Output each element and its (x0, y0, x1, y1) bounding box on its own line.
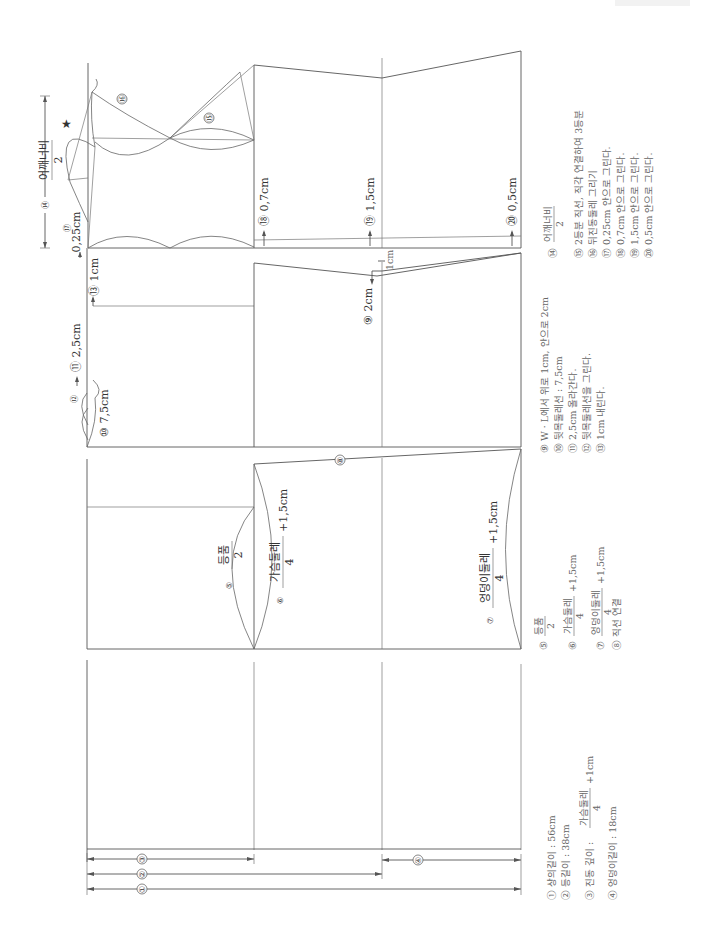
svg-text:어깨너비: 어깨너비 (542, 206, 553, 242)
svg-text:⑤: ⑤ (538, 641, 549, 650)
svg-text:⑯: ⑯ (118, 95, 127, 103)
svg-text:가슴둘레: 가슴둘레 (269, 542, 282, 582)
notes-group-3: ⑨ W · L에서 위로 1cm, 안으로 2cm ⑩ 뒷목둘레선 : 7,5c… (539, 297, 606, 453)
note-14: ⑭ 어깨너비 2 (542, 206, 565, 258)
svg-text:⑭: ⑭ (41, 201, 50, 209)
svg-text:어깨너비: 어깨너비 (38, 140, 51, 180)
svg-text:⑮: ⑮ (205, 114, 214, 122)
notes-group-4: ⑭ 어깨너비 2 ⑮ 2등분 직선, 직각 연결하여 3등분 ⑯ 뒤진동둘레 그… (542, 110, 654, 258)
note-17: ⑰ 0,25cm 안으로 그린다. (601, 146, 612, 258)
panel-side-seam: ⑧ (87, 449, 521, 649)
panel-shoulder: ★ (61, 51, 522, 248)
note-16: ⑯ 뒤진동둘레 그리기 (587, 170, 598, 258)
note-5: ⑤ 등품 2 (533, 616, 556, 650)
note-6: ⑥ 가슴둘레 4 +1,5cm (562, 555, 585, 650)
svg-text:③ 진동 깊이 :: ③ 진동 깊이 : (584, 842, 595, 900)
pattern-diagram: ③ ② ① ④ ⑧ ⑤ 등품 2 ⑥ 가슴둘레 4 +1,5cm ⑦ 엉덩이둘레 (0, 0, 703, 941)
svg-text:⑥: ⑥ (567, 641, 578, 650)
label-10: ⑩ 7,5cm (98, 389, 111, 437)
svg-text:⑦: ⑦ (486, 617, 495, 624)
svg-text:+1,5cm: +1,5cm (487, 500, 500, 544)
note-3: ③ 진동 깊이 : 가슴둘레 4 +1cm (578, 756, 602, 900)
label-7-hip: ⑦ 엉덩이둘레 4 +1,5cm (479, 500, 506, 623)
note-18: ⑱ 0,7cm 안으로 그린다. (615, 152, 626, 258)
label-8: ⑧ (336, 457, 345, 464)
panel-back (82, 248, 521, 447)
svg-text:4: 4 (574, 613, 585, 619)
note-2: ② 등길이 : 38cm (560, 824, 571, 900)
note-1: ① 상의길이 : 56cm (546, 815, 557, 900)
note-7: ⑦ 엉덩이둘레 4 +1,5cm (590, 547, 613, 650)
svg-text:+1,5cm: +1,5cm (277, 488, 290, 532)
note-11: ⑪ 2,5cm 올라간다. (567, 369, 578, 454)
dim-1-label: ① (138, 886, 147, 893)
label-13: ⑬ 1cm (88, 257, 101, 296)
svg-text:1cm: 1cm (384, 250, 395, 270)
svg-text:4: 4 (493, 575, 506, 582)
svg-text:+1cm: +1cm (584, 756, 595, 784)
svg-text:2: 2 (232, 552, 245, 559)
svg-text:가슴둘레: 가슴둘레 (562, 598, 573, 634)
svg-text:2: 2 (545, 623, 556, 629)
label-19: ⑲ 1,5cm (364, 177, 377, 226)
note-13: ⑬ 1cm 내린다. (595, 387, 606, 453)
svg-text:2: 2 (52, 157, 65, 164)
star-icon: ★ (61, 117, 72, 131)
label-6-chest: ⑥ 가슴둘레 4 +1,5cm (269, 488, 296, 603)
note-15: ⑮ 2등분 직선, 직각 연결하여 3등분 (573, 110, 584, 258)
svg-text:⑨ 2cm: ⑨ 2cm (362, 287, 375, 325)
svg-text:⑤: ⑤ (225, 582, 234, 589)
label-15-16: ⑮ ⑯ (117, 94, 214, 123)
dim-2-label: ② (138, 871, 147, 878)
notes-group-2: ⑤ 등품 2 ⑥ 가슴둘레 4 +1,5cm ⑦ 엉덩이둘레 4 +1,5cm … (533, 547, 622, 650)
svg-text:+1,5cm: +1,5cm (567, 555, 578, 592)
svg-text:등품: 등품 (218, 545, 231, 565)
note-9: ⑨ W · L에서 위로 1cm, 안으로 2cm (539, 297, 550, 453)
svg-text:0,25cm: 0,25cm (70, 211, 83, 253)
note-4: ④ 엉덩이길이 : 18cm (607, 806, 618, 900)
svg-text:2: 2 (554, 221, 565, 227)
label-12: ⑫ (70, 395, 79, 403)
svg-text:엉덩이둘레: 엉덩이둘레 (590, 590, 601, 635)
dimension-lines: ③ ② ① ④ (87, 853, 521, 895)
label-18-19-20: ⑱ 0,7cm ⑲ 1,5cm ⑳ 0,5cm (258, 177, 519, 246)
notes-group-1: ① 상의길이 : 56cm ② 등길이 : 38cm ③ 진동 깊이 : 가슴둘… (546, 756, 618, 900)
svg-text:4: 4 (283, 559, 296, 566)
note-12: ⑫ 뒷목둘레선을 그린다. (581, 353, 592, 453)
dim-4-label: ④ (414, 857, 423, 864)
label-20: ⑳ 0,5cm (506, 177, 519, 226)
label-11: ⑪ 2,5cm (70, 323, 83, 372)
note-10: ⑩ 뒷목둘레선 : 7,5cm (553, 356, 564, 453)
panel-base-grid (87, 660, 521, 862)
svg-text:가슴둘레: 가슴둘레 (578, 790, 589, 826)
label-5-back-width: ⑤ 등품 2 (218, 541, 245, 589)
note-20: ⑳ 0,5cm 안으로 그린다. (643, 152, 654, 258)
svg-text:+1,5cm: +1,5cm (595, 547, 606, 584)
svg-text:등품: 등품 (533, 617, 544, 635)
dim-3-label: ③ (138, 856, 147, 863)
note-8: ⑧ 직선 연결 (611, 598, 622, 650)
svg-text:엉덩이둘레: 엉덩이둘레 (479, 553, 492, 603)
label-17-neck: ⑰ 0,25cm (63, 211, 83, 258)
note-19: ⑲ 1,5cm 안으로 그린다. (629, 152, 640, 258)
svg-text:⑥: ⑥ (276, 597, 285, 604)
svg-text:⑦: ⑦ (595, 641, 606, 650)
label-9: ⑨ 2cm 1cm (362, 250, 395, 325)
svg-text:⑭: ⑭ (547, 248, 558, 258)
label-18: ⑱ 0,7cm (258, 177, 271, 226)
label-10-11-12-13: ⑩ 7,5cm ⑫ ⑪ 2,5cm ⑬ 1cm (70, 257, 111, 437)
svg-text:4: 4 (591, 805, 602, 811)
